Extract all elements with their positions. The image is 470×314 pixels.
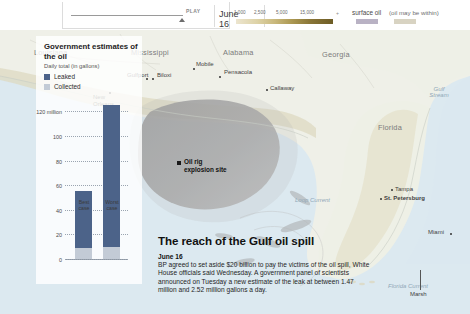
chart-ytick-120: 120 million bbox=[36, 109, 62, 115]
legend-label-collected: Collected bbox=[54, 83, 81, 90]
chart-ytick-100: 100 bbox=[53, 134, 62, 140]
legend-swatch-leaked bbox=[44, 74, 50, 80]
bar-segment-collected bbox=[103, 247, 120, 259]
chart-ytick-0: 0 bbox=[59, 257, 62, 263]
top-control-bar: PLAY June 16 – 1,0002,5005,00015,000 + s… bbox=[0, 0, 470, 30]
story-block: The reach of the Gulf oil spill June 16 … bbox=[158, 234, 372, 295]
bar-segment-leaked bbox=[103, 105, 120, 259]
estimates-chart-panel: Government estimates of the oil Daily to… bbox=[36, 36, 142, 284]
gradient-tick-2: 5,000 bbox=[276, 10, 288, 15]
story-date: June 16 bbox=[158, 253, 372, 260]
chart-ytick-20: 20 bbox=[56, 232, 62, 238]
oil-rig-annotation: Oil rig explosion site bbox=[184, 158, 227, 173]
city-dot-biloxi bbox=[152, 78, 154, 80]
divider bbox=[214, 5, 215, 27]
chart-xlabel-worst-case: Worstcase bbox=[97, 199, 127, 211]
oil-density-gradient-legend bbox=[236, 19, 333, 24]
gradient-max-mark: + bbox=[336, 10, 339, 16]
oil-rig-line2: explosion site bbox=[184, 166, 227, 173]
chart-subtitle: Daily total (in gallons) bbox=[44, 63, 99, 69]
oil-spill-interactive-graphic: Louisiana Mississippi Alabama Georgia Fl… bbox=[0, 0, 470, 314]
legend-swatch-collected bbox=[44, 84, 50, 90]
timeline-slider[interactable]: PLAY June 16 bbox=[62, 2, 230, 29]
bar-segment-collected bbox=[75, 248, 92, 259]
city-dot-st-petersburg bbox=[380, 198, 382, 200]
chart-title: Government estimates of the oil bbox=[44, 42, 138, 61]
city-dot-tampa bbox=[391, 189, 393, 191]
city-dot-gulfport bbox=[146, 78, 148, 80]
slider-knob[interactable] bbox=[179, 18, 185, 22]
marsh-leader-line bbox=[420, 270, 421, 290]
story-body: BP agreed to set aside $20 billion to pa… bbox=[158, 261, 372, 295]
story-headline: The reach of the Gulf oil spill bbox=[158, 234, 372, 247]
city-dot-callaway bbox=[266, 89, 268, 91]
oil-rig-line1: Oil rig bbox=[184, 158, 202, 165]
legend-label-leaked: Leaked bbox=[54, 73, 75, 80]
chart-bar-worst-case[interactable] bbox=[103, 105, 120, 259]
legend-label-surface-oil: surface oil bbox=[352, 9, 381, 16]
chart-gridline-0: 0 bbox=[65, 259, 128, 260]
play-button[interactable]: PLAY bbox=[186, 8, 200, 14]
slider-track[interactable] bbox=[71, 15, 183, 16]
legend-label-oil-may-be-within: (oil may be within) bbox=[389, 9, 439, 16]
gradient-tick-3: 15,000 bbox=[300, 10, 314, 15]
legend-swatch-oil-may-be-within bbox=[394, 19, 416, 24]
city-dot-mobile bbox=[193, 68, 195, 70]
chart-ytick-60: 60 bbox=[56, 183, 62, 189]
gradient-tick-1: 2,500 bbox=[254, 10, 266, 15]
city-dot-pensacola bbox=[219, 76, 221, 78]
oil-rig-marker[interactable] bbox=[177, 161, 181, 165]
chart-ytick-40: 40 bbox=[56, 208, 62, 214]
gradient-tick-labels: 1,0002,5005,00015,000 bbox=[228, 10, 344, 18]
chart-plot-area: 020406080100120 million bbox=[65, 99, 128, 259]
legend-swatch-surface-oil bbox=[356, 19, 378, 24]
chart-xlabel-best-case: Bestcase bbox=[69, 199, 99, 211]
gradient-tick-0: 1,000 bbox=[234, 10, 246, 15]
city-dot-miami bbox=[450, 233, 452, 235]
chart-ytick-80: 80 bbox=[56, 159, 62, 165]
